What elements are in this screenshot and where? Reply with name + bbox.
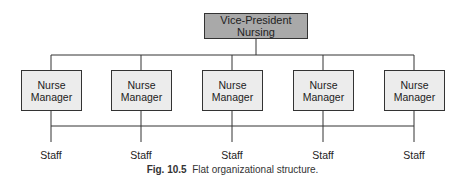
staff-label: Staff [111, 149, 171, 161]
vice-president-node: Vice-President Nursing [204, 13, 308, 39]
manager-label-line2: Manager [212, 91, 253, 103]
manager-label-line2: Manager [394, 91, 435, 103]
nurse-manager-node: NurseManager [21, 70, 82, 111]
manager-label-line2: Manager [31, 91, 72, 103]
manager-label-line1: Nurse [400, 79, 428, 91]
manager-label-line1: Nurse [37, 79, 65, 91]
nurse-manager-node: NurseManager [202, 70, 263, 111]
nurse-manager-node: NurseManager [111, 70, 172, 111]
nurse-manager-node: NurseManager [293, 70, 354, 111]
staff-label: Staff [384, 149, 444, 161]
staff-label: Staff [21, 149, 81, 161]
staff-label: Staff [202, 149, 262, 161]
manager-label-line1: Nurse [218, 79, 246, 91]
figure-number: Fig. 10.5 [147, 164, 187, 175]
manager-label-line1: Nurse [127, 79, 155, 91]
manager-label-line1: Nurse [309, 79, 337, 91]
staff-label: Staff [293, 149, 353, 161]
manager-label-line2: Manager [303, 91, 344, 103]
manager-label-line2: Manager [121, 91, 162, 103]
vice-president-label: Vice-President Nursing [205, 14, 307, 38]
nurse-manager-node: NurseManager [384, 70, 445, 111]
figure-caption: Fig. 10.5 Flat organizational structure. [0, 164, 465, 175]
figure-caption-text: Flat organizational structure. [192, 164, 318, 175]
